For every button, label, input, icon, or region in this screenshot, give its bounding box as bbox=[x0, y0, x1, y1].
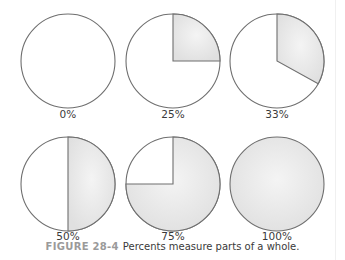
pie-50-percent bbox=[21, 137, 115, 231]
pie-75-percent bbox=[126, 137, 220, 231]
figure-caption: FIGURE 28-4Percents measure parts of a w… bbox=[0, 241, 345, 252]
pie-100-percent bbox=[230, 137, 324, 231]
pie-label-33: 33% bbox=[237, 108, 317, 120]
percent-pie-figure: 0% 25% 33% 50% 75% 100% FIGURE 28-4Perce… bbox=[0, 0, 345, 260]
figure-caption-text: Percents measure parts of a whole. bbox=[123, 241, 300, 252]
pie-label-25: 25% bbox=[133, 108, 213, 120]
pie-33-percent bbox=[230, 14, 324, 108]
pie-0-percent bbox=[21, 14, 115, 108]
pie-label-0: 0% bbox=[28, 108, 108, 120]
pie-25-percent bbox=[126, 14, 220, 108]
pie-charts bbox=[0, 0, 345, 260]
figure-number: FIGURE 28-4 bbox=[46, 241, 119, 252]
